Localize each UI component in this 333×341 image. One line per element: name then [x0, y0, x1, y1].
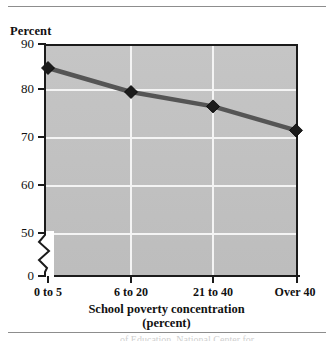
- x-axis-title-line1: School poverty concentration: [0, 302, 333, 316]
- y-tick-label-90: 90: [0, 37, 34, 50]
- y-axis-break-icon: [36, 231, 54, 277]
- y-tick-0: [38, 275, 46, 277]
- source-note-clipped: of Education, National Center for: [120, 334, 330, 341]
- x-tick-6-to-20: [130, 276, 132, 283]
- top-divider-rule: [8, 6, 326, 7]
- y-tick-label-80: 80: [0, 82, 34, 95]
- y-tick-80: [38, 88, 46, 90]
- x-tick-21-to-40: [212, 276, 214, 283]
- data-point-marker: [290, 124, 303, 137]
- data-point-marker: [125, 86, 138, 99]
- x-tick-0-to-5: [47, 276, 49, 283]
- x-tick-label-over-40: Over 40: [250, 285, 333, 300]
- y-tick-50: [38, 232, 46, 234]
- y-axis-line: [44, 43, 46, 236]
- x-tick-over-40: [296, 276, 298, 283]
- x-tick-label-6-to-20: 6 to 20: [86, 285, 176, 300]
- x-axis-line: [44, 275, 300, 277]
- bottom-divider-rule: [8, 332, 326, 333]
- chart-plot-area: [46, 44, 298, 276]
- x-tick-label-0-to-5: 0 to 5: [3, 285, 93, 300]
- y-tick-60: [38, 184, 46, 186]
- y-tick-label-50: 50: [0, 226, 34, 239]
- data-series-layer: [46, 44, 298, 276]
- x-tick-label-21-to-40: 21 to 40: [168, 285, 258, 300]
- y-tick-label-60: 60: [0, 178, 34, 191]
- y-tick-label-70: 70: [0, 130, 34, 143]
- series-line: [48, 68, 296, 130]
- y-tick-70: [38, 136, 46, 138]
- x-axis-title-line2: (percent): [0, 316, 333, 330]
- data-point-marker: [207, 100, 220, 113]
- y-tick-90: [38, 43, 46, 45]
- y-tick-label-0: 0: [0, 269, 34, 282]
